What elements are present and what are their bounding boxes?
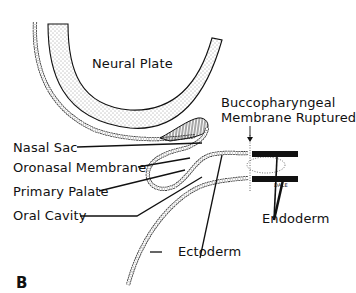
- label-primary-palate: Primary Palate: [13, 185, 109, 198]
- label-ectoderm: Ectoderm: [178, 245, 241, 258]
- ectoderm-beaded-lower: [128, 178, 248, 285]
- primary-palate-loop: [148, 148, 248, 189]
- endoderm-bars: [252, 151, 298, 182]
- label-nasal-sac: Nasal Sac: [13, 141, 77, 154]
- artist-signature: DALE: [274, 183, 288, 188]
- label-neural-plate: Neural Plate: [92, 57, 173, 70]
- label-oral-cavity: Oral Cavity: [13, 209, 87, 222]
- leader-ectoderm-upper: [200, 155, 222, 258]
- label-buccopharyngeal-1: Buccopharyngeal: [221, 96, 335, 109]
- label-oronasal-membrane: Oronasal Membrane: [13, 161, 146, 174]
- label-buccopharyngeal-2: Membrane Ruptured: [221, 111, 356, 124]
- neural-plate-band: [48, 24, 222, 128]
- arrow-down-icon: [247, 137, 253, 142]
- label-endoderm: Endoderm: [262, 212, 330, 225]
- leader-nasal-sac: [77, 143, 202, 147]
- panel-letter: B: [16, 276, 28, 291]
